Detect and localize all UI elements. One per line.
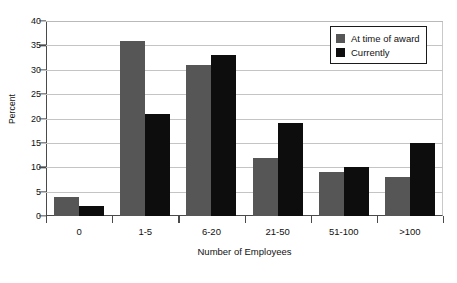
bar	[319, 172, 344, 216]
legend-swatch-icon	[336, 48, 345, 57]
y-tick-mark	[39, 118, 46, 119]
y-tick-label: 30	[13, 65, 41, 75]
bar	[344, 167, 369, 216]
y-tick-label: 5	[13, 187, 41, 197]
legend: At time of awardCurrently	[330, 26, 427, 64]
legend-label: Currently	[351, 47, 390, 58]
legend-item: At time of award	[336, 31, 420, 45]
x-tick-mark	[443, 216, 444, 223]
y-tick-mark	[39, 191, 46, 192]
bar-group	[120, 21, 170, 216]
bar-group	[54, 21, 104, 216]
bar	[54, 197, 79, 217]
bar-group	[253, 21, 303, 216]
x-tick-label: 6-20	[202, 226, 221, 237]
y-tick-label: 20	[13, 114, 41, 124]
x-tick-label: 0	[76, 226, 81, 237]
legend-swatch-icon	[336, 34, 345, 43]
x-axis-title: Number of Employees	[46, 246, 443, 257]
y-axis-title: Percent	[7, 79, 17, 139]
bar	[120, 41, 145, 217]
y-tick-label: 35	[13, 40, 41, 50]
x-tick-mark	[311, 216, 312, 223]
y-tick-mark	[39, 45, 46, 46]
y-tick-mark	[39, 142, 46, 143]
y-tick-label: 0	[13, 211, 41, 221]
bar	[253, 158, 278, 217]
y-tick-label: 10	[13, 162, 41, 172]
x-tick-mark	[178, 216, 179, 223]
bar	[410, 143, 435, 216]
x-tick-mark	[112, 216, 113, 223]
y-tick-mark	[39, 20, 46, 21]
x-tick-label: >100	[399, 226, 420, 237]
bar	[186, 65, 211, 216]
bar	[278, 123, 303, 216]
y-tick-label: 40	[13, 16, 41, 26]
bar	[79, 206, 104, 216]
y-tick-mark	[39, 167, 46, 168]
x-tick-mark	[377, 216, 378, 223]
x-tick-label: 51-100	[329, 226, 359, 237]
legend-label: At time of award	[351, 33, 420, 44]
y-tick-mark	[39, 93, 46, 94]
y-tick-mark	[39, 215, 46, 216]
y-tick-label: 15	[13, 138, 41, 148]
x-tick-label: 1-5	[138, 226, 152, 237]
x-tick-label: 21-50	[265, 226, 289, 237]
bar	[385, 177, 410, 216]
x-tick-mark	[46, 216, 47, 223]
x-tick-mark	[245, 216, 246, 223]
y-tick-label: 25	[13, 89, 41, 99]
bar	[145, 114, 170, 216]
bar-group	[186, 21, 236, 216]
legend-item: Currently	[336, 45, 420, 59]
bar-chart: Percent 0510152025303540 01-56-2021-5051…	[0, 0, 457, 283]
y-tick-mark	[39, 69, 46, 70]
bar	[211, 55, 236, 216]
